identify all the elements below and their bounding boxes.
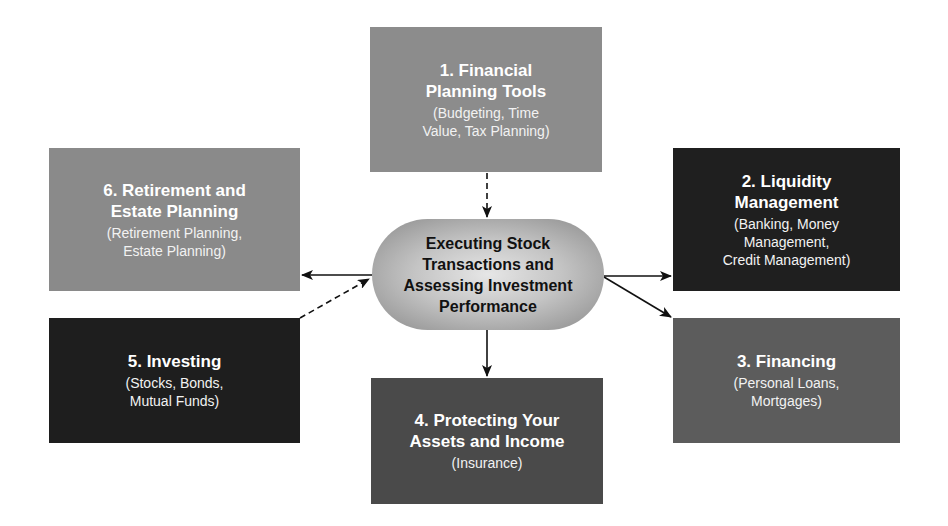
node-title: 6. Retirement and Estate Planning — [103, 180, 246, 222]
node-subtitle: (Retirement Planning, Estate Planning) — [107, 224, 242, 260]
node-title: 2. Liquidity Management — [735, 171, 839, 213]
node-subtitle: (Banking, Money Management, Credit Manag… — [723, 215, 851, 269]
node-liquidity-management: 2. Liquidity Management (Banking, Money … — [673, 148, 900, 291]
node-financing: 3. Financing (Personal Loans, Mortgages) — [673, 318, 900, 443]
node-protecting-assets-income: 4. Protecting Your Assets and Income (In… — [371, 378, 603, 504]
arrow-center-to-node3 — [604, 277, 671, 317]
node-title: 1. Financial Planning Tools — [426, 60, 547, 102]
node-subtitle: (Budgeting, Time Value, Tax Planning) — [422, 104, 549, 140]
node-title: 4. Protecting Your Assets and Income — [410, 410, 565, 452]
node-subtitle: (Personal Loans, Mortgages) — [734, 374, 840, 410]
node-financial-planning-tools: 1. Financial Planning Tools (Budgeting, … — [370, 27, 602, 172]
node-retirement-estate-planning: 6. Retirement and Estate Planning (Retir… — [49, 148, 300, 291]
node-subtitle: (Insurance) — [452, 454, 523, 472]
node-title: 5. Investing — [128, 351, 222, 372]
node-investing: 5. Investing (Stocks, Bonds, Mutual Fund… — [49, 318, 300, 443]
node-subtitle: (Stocks, Bonds, Mutual Funds) — [125, 374, 223, 410]
center-hub-executing-stock-transactions: Executing Stock Transactions and Assessi… — [372, 219, 604, 330]
arrow-node5-to-center — [300, 279, 369, 318]
node-title: 3. Financing — [737, 351, 836, 372]
